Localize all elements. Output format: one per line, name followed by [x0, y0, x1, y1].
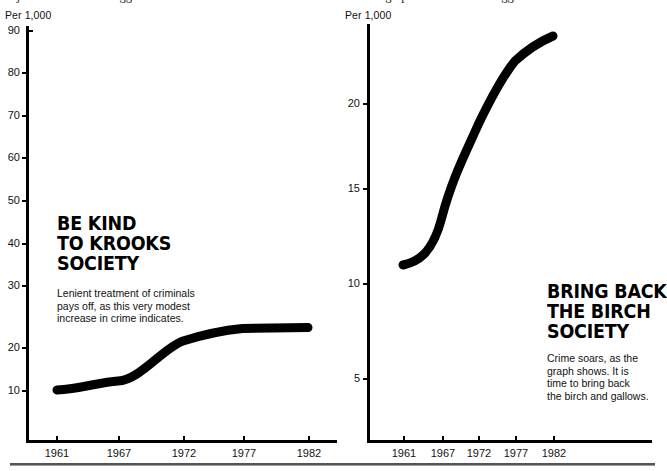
right-society-headline: BRING BACK THE BIRCH SOCIETY: [547, 281, 667, 341]
left-society-headline: BE KIND TO KROOKS SOCIETY: [57, 213, 171, 273]
right-society-blurb: Crime soars, as the graph shows. It is t…: [547, 352, 649, 402]
left-society-blurb: Lenient treatment of criminals pays off,…: [57, 287, 195, 325]
page-bottom-rule-shadow: [10, 465, 655, 466]
chart-right-bring-back-the-birch: Per 1,000 20 15 10 5 1961 1967 1972 1977…: [340, 0, 665, 471]
chart-left-be-kind-to-krooks: Per 1,000 90 80 70 60 50 40 30 20 10 196…: [0, 0, 340, 471]
